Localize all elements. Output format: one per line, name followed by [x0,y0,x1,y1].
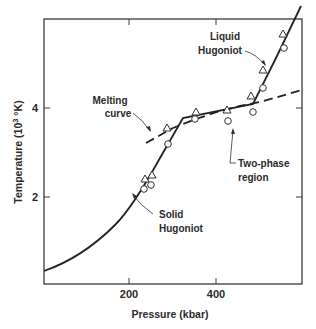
annotation-two-phase-region: Two-phase region [230,128,290,183]
melting-curve [146,90,302,143]
x-axis-label: Pressure (kbar) [131,308,208,320]
x-tick-label-400: 400 [207,288,225,300]
x-ticks [129,19,216,284]
annotation-liquid-hugoniot: Liquid Hugoniot [198,31,266,66]
svg-text:Melting: Melting [93,95,128,106]
annotation-solid-hugoniot: Solid Hugoniot [132,193,204,234]
y-tick-label-2: 2 [32,191,38,203]
svg-text:Solid: Solid [159,209,183,220]
chart-svg: 200 400 4 2 Pressure (kbar) Temperature … [0,0,316,329]
y-tick-label-4: 4 [32,102,39,114]
y-ticks [44,108,302,197]
svg-text:Hugoniot: Hugoniot [159,223,204,234]
y-axis-label: Temperature (103 °K) [11,100,24,203]
svg-text:Temperature (103 °K): Temperature (103 °K) [11,100,24,203]
svg-text:Two-phase: Two-phase [238,158,290,169]
svg-text:Hugoniot: Hugoniot [198,45,243,56]
plot-frame [44,19,302,284]
circle-markers [141,45,288,193]
svg-text:region: region [238,172,269,183]
svg-text:curve: curve [105,108,132,119]
svg-text:Liquid: Liquid [210,31,240,42]
annotation-melting-curve: Melting curve [93,95,152,132]
x-tick-label-200: 200 [120,288,138,300]
